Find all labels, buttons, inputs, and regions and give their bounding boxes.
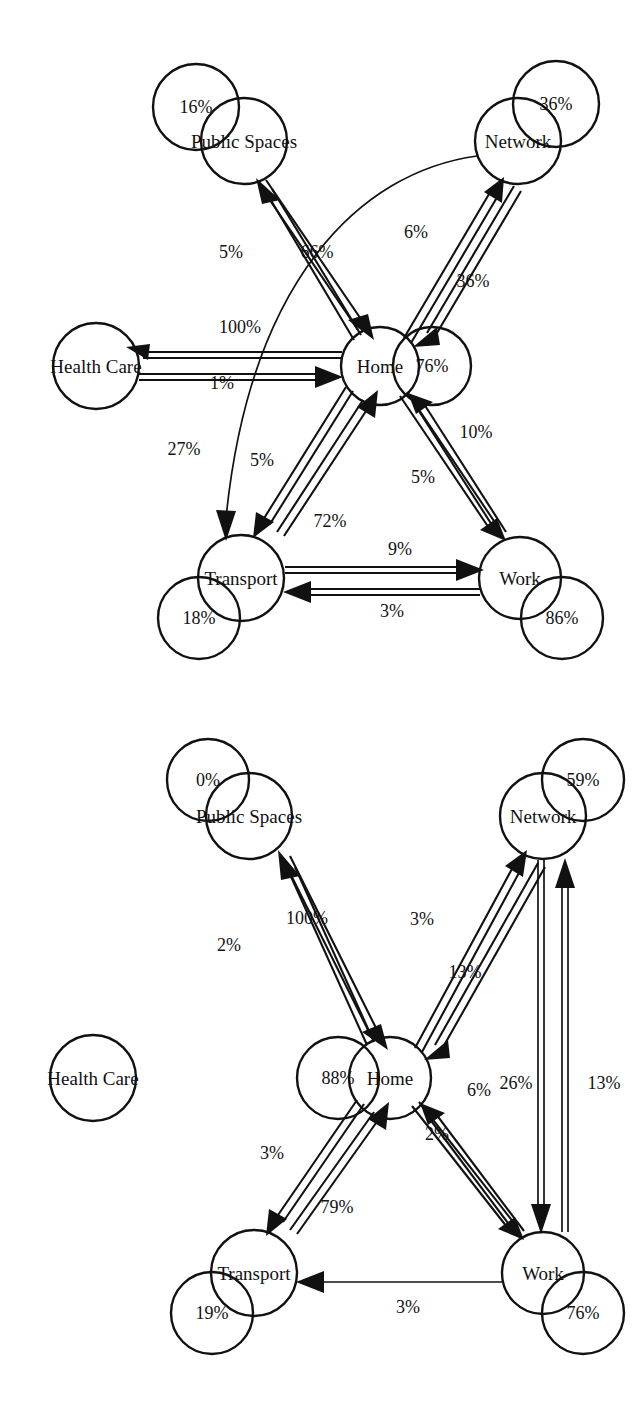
- edge-label-network-to-home-2: 13%: [449, 963, 482, 981]
- edge-label-home-to-transport-2: 3%: [260, 1144, 284, 1162]
- edge-home-to-network-2: [415, 850, 527, 1052]
- edge-health-care-to-home: [139, 366, 343, 388]
- edge-label-network-to-home: 36%: [457, 272, 490, 290]
- loop-label-work: 86%: [546, 609, 579, 627]
- loop-label-transport-2: 19%: [196, 1304, 229, 1322]
- loop-label-home: 76%: [416, 357, 449, 375]
- edge-label-home-to-health: 100%: [219, 318, 261, 336]
- edge-public-spaces-to-home-2: [283, 856, 388, 1050]
- edge-work-to-network-2: [555, 858, 575, 1232]
- node-label-network: Network: [485, 132, 551, 151]
- edge-label-home-to-transport: 5%: [250, 451, 274, 469]
- transition-diagram-bottom: Public Spaces 0% Network 59% Health Care…: [0, 700, 640, 1414]
- loop-label-public-spaces: 16%: [180, 98, 213, 116]
- edge-label-work-to-transport: 3%: [380, 602, 404, 620]
- edge-label-home-to-work: 5%: [411, 468, 435, 486]
- loop-label-home-2: 88%: [322, 1069, 355, 1087]
- node-label-health-care: Health Care: [50, 357, 141, 376]
- loop-label-network: 36%: [540, 95, 573, 113]
- edge-label-home-to-work-2: 2%: [425, 1125, 449, 1143]
- node-label-home: Home: [357, 357, 403, 376]
- edge-label-transport-to-home: 72%: [314, 512, 347, 530]
- edge-work-to-transport: [283, 581, 480, 603]
- edge-network-to-home-2: [424, 863, 545, 1060]
- edge-label-home-to-network-2: 3%: [410, 910, 434, 928]
- figure-canvas: Public Spaces 16% Network 36% Health Car…: [0, 0, 640, 1414]
- node-label-network-2: Network: [510, 807, 576, 826]
- edge-network-to-home: [413, 186, 521, 347]
- edge-label-transport-to-home-2: 79%: [321, 1198, 354, 1216]
- node-label-health-care-2: Health Care: [47, 1069, 138, 1088]
- edge-label-network-to-work-2: 26%: [500, 1074, 533, 1092]
- edge-network-to-transport: [216, 156, 477, 541]
- node-label-public-spaces-2: Public Spaces: [196, 807, 302, 826]
- edge-label-work-to-transport-2: 3%: [396, 1298, 420, 1316]
- node-label-work: Work: [499, 569, 541, 588]
- edge-transport-to-work: [285, 559, 484, 581]
- edge-label-home-to-public-2: 2%: [217, 936, 241, 954]
- edge-label-public-to-home: 66%: [301, 243, 334, 261]
- edge-label-work-to-home: 10%: [460, 423, 493, 441]
- edge-label-network-to-transport: 27%: [168, 440, 201, 458]
- node-label-work-2: Work: [522, 1264, 564, 1283]
- edge-label-home-to-public: 5%: [219, 243, 243, 261]
- edge-work-to-transport-2: [296, 1271, 502, 1293]
- loop-label-transport: 18%: [183, 609, 216, 627]
- transition-diagram-top: Public Spaces 16% Network 36% Health Car…: [0, 0, 640, 700]
- edge-label-public-to-home-2: 100%: [286, 909, 328, 927]
- edge-label-work-to-home-2: 6%: [467, 1081, 491, 1099]
- edge-home-to-network: [404, 177, 504, 343]
- node-label-transport-2: Transport: [217, 1264, 290, 1283]
- edge-network-to-work-2: [531, 860, 551, 1234]
- loop-label-public-spaces-2: 0%: [196, 771, 220, 789]
- edge-label-home-to-network: 6%: [404, 223, 428, 241]
- edge-home-to-health-care: [126, 344, 342, 360]
- node-label-home-2: Home: [367, 1069, 413, 1088]
- loop-label-work-2: 76%: [567, 1304, 600, 1322]
- edge-label-health-to-home: 1%: [210, 374, 234, 392]
- node-label-public-spaces: Public Spaces: [191, 132, 297, 151]
- edge-label-transport-to-work: 9%: [388, 540, 412, 558]
- node-label-transport: Transport: [204, 569, 277, 588]
- edge-label-work-to-network-2: 13%: [588, 1074, 621, 1092]
- loop-label-network-2: 59%: [567, 771, 600, 789]
